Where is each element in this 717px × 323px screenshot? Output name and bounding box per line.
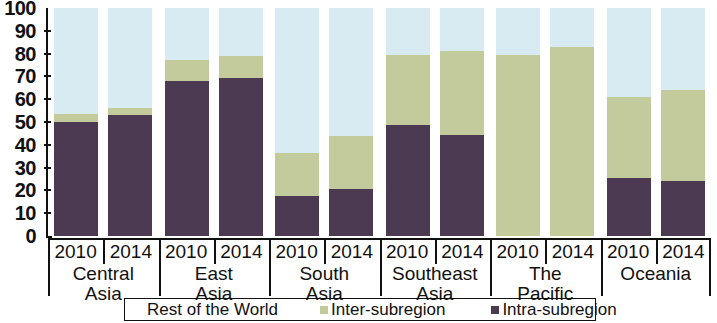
y-tick-label: 50 — [15, 112, 36, 132]
bar-segment-intra-subregion — [165, 81, 209, 236]
region-name-line1: Southeast — [380, 264, 491, 284]
bar-segment-inter-subregion — [386, 55, 430, 126]
chart-legend: Rest of the WorldInter-subregionIntra-su… — [124, 298, 596, 321]
x-axis-year-divider — [656, 238, 658, 264]
y-tick-label: 0 — [25, 226, 36, 246]
bar-group — [329, 8, 373, 236]
x-axis-region-label: Oceania — [601, 264, 712, 284]
bar-segment-inter-subregion — [219, 56, 263, 78]
bar-segment-rest-of-the-world — [108, 8, 152, 108]
x-axis-labels: 20102014CentralAsia20102014EastAsia20102… — [48, 238, 711, 296]
legend-swatch-icon — [320, 306, 328, 314]
legend-label: Intra-subregion — [502, 300, 616, 320]
x-axis-year-divider — [545, 238, 547, 264]
bar-group — [496, 8, 540, 236]
bar-segment-intra-subregion — [275, 196, 319, 236]
x-axis-year-divider — [435, 238, 437, 264]
bar-group — [661, 8, 705, 236]
bar-segment-inter-subregion — [108, 108, 152, 115]
bar-group — [54, 8, 98, 236]
bar-segment-inter-subregion — [607, 97, 651, 178]
region-name-line1: East — [159, 264, 270, 284]
x-axis-year-label: 2014 — [656, 240, 711, 264]
bar-segment-rest-of-the-world — [165, 8, 209, 60]
bar-segment-intra-subregion — [607, 178, 651, 236]
x-axis-year-label: 2010 — [380, 240, 435, 264]
bar-segment-inter-subregion — [329, 136, 373, 190]
bar-stack — [219, 8, 263, 236]
bar-segment-inter-subregion — [440, 51, 484, 134]
x-axis-year-label: 2010 — [48, 240, 103, 264]
bar-group — [607, 8, 651, 236]
bar-segment-intra-subregion — [219, 78, 263, 236]
y-tick-label: 20 — [15, 180, 36, 200]
bar-segment-intra-subregion — [386, 125, 430, 236]
bar-stack — [550, 8, 594, 236]
bar-group — [440, 8, 484, 236]
bar-segment-rest-of-the-world — [219, 8, 263, 56]
x-axis-year-label: 2014 — [324, 240, 379, 264]
bar-segment-inter-subregion — [496, 55, 540, 236]
bar-group — [550, 8, 594, 236]
bar-stack — [661, 8, 705, 236]
bar-segment-intra-subregion — [54, 122, 98, 236]
region-name-line1: Oceania — [601, 264, 712, 284]
bar-segment-rest-of-the-world — [496, 8, 540, 55]
bar-segment-rest-of-the-world — [54, 8, 98, 114]
bar-group — [386, 8, 430, 236]
bar-group — [108, 8, 152, 236]
bar-segment-intra-subregion — [329, 189, 373, 236]
bar-segment-rest-of-the-world — [607, 8, 651, 97]
bar-segment-rest-of-the-world — [329, 8, 373, 136]
bar-segment-intra-subregion — [108, 115, 152, 236]
bar-stack — [386, 8, 430, 236]
y-tick-label: 80 — [15, 44, 36, 64]
bar-segment-inter-subregion — [661, 90, 705, 181]
y-axis: 1009080706050403020100 — [0, 8, 44, 236]
bar-segment-rest-of-the-world — [386, 8, 430, 55]
bar-stack — [607, 8, 651, 236]
x-axis-end-divider — [709, 238, 711, 296]
y-tick-label: 100 — [4, 0, 36, 18]
x-axis-year-divider — [324, 238, 326, 264]
legend-item: Inter-subregion — [320, 300, 445, 320]
y-tick-label: 30 — [15, 158, 36, 178]
bar-stack — [275, 8, 319, 236]
x-axis-year-label: 2014 — [435, 240, 490, 264]
bar-group — [219, 8, 263, 236]
x-axis-year-label: 2014 — [545, 240, 600, 264]
bar-segment-inter-subregion — [54, 114, 98, 122]
x-axis-year-label: 2010 — [159, 240, 214, 264]
bar-stack — [440, 8, 484, 236]
bar-segment-rest-of-the-world — [550, 8, 594, 47]
x-axis-year-label: 2010 — [490, 240, 545, 264]
bar-segment-intra-subregion — [661, 181, 705, 236]
bar-group — [165, 8, 209, 236]
y-tick-label: 10 — [15, 203, 36, 223]
bar-segment-inter-subregion — [550, 47, 594, 236]
y-tick-label: 90 — [15, 21, 36, 41]
bar-stack — [54, 8, 98, 236]
legend-item: Rest of the World — [147, 300, 278, 320]
legend-swatch-icon — [491, 306, 499, 314]
legend-label: Rest of the World — [147, 300, 278, 320]
region-name-line1: South — [269, 264, 380, 284]
y-tick-label: 40 — [15, 135, 36, 155]
x-axis-year-label: 2010 — [269, 240, 324, 264]
bar-segment-intra-subregion — [440, 135, 484, 236]
x-axis-year-label: 2010 — [601, 240, 656, 264]
x-axis-year-divider — [214, 238, 216, 264]
stacked-bar-chart: 1009080706050403020100 20102014CentralAs… — [0, 0, 717, 323]
x-axis-year-label: 2014 — [214, 240, 269, 264]
x-axis-year-label: 2014 — [103, 240, 158, 264]
bar-segment-rest-of-the-world — [275, 8, 319, 153]
x-axis-year-divider — [103, 238, 105, 264]
bar-group — [275, 8, 319, 236]
bar-segment-rest-of-the-world — [440, 8, 484, 51]
legend-item: Intra-subregion — [491, 300, 616, 320]
y-tick-label: 60 — [15, 89, 36, 109]
y-tick-label: 70 — [15, 66, 36, 86]
bar-stack — [108, 8, 152, 236]
region-name-line1: Central — [48, 264, 159, 284]
region-name-line1: The — [490, 264, 601, 284]
